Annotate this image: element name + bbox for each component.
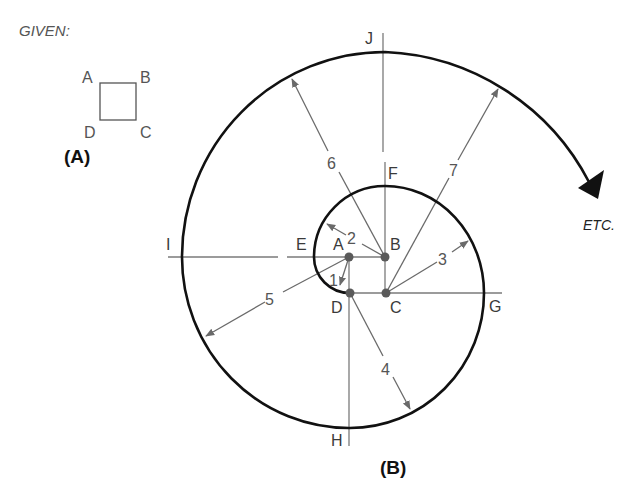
label-f: F xyxy=(388,165,398,182)
spiral-arrowhead-icon xyxy=(578,170,604,199)
radius-arrow-6 xyxy=(292,79,328,151)
label-h: H xyxy=(331,432,343,449)
dot-d xyxy=(346,289,355,298)
radius-arrow-7 xyxy=(458,89,498,160)
given-square xyxy=(100,83,136,120)
label-d: D xyxy=(331,299,343,316)
label-e: E xyxy=(296,236,307,253)
given-label-c: C xyxy=(140,124,152,141)
given-label-a: A xyxy=(82,69,93,86)
label-g: G xyxy=(489,298,501,315)
radius-label-2: 2 xyxy=(347,230,356,247)
given-label-d: D xyxy=(84,124,96,141)
spiral-labels: A B C D E F G H I J 1 2 3 4 5 6 7 ETC. (… xyxy=(166,30,615,478)
figure-label-b: (B) xyxy=(380,457,406,478)
radius-arrow-2 xyxy=(327,224,346,235)
radius-arrow-3-tail xyxy=(386,262,437,293)
radius-label-5: 5 xyxy=(265,291,274,308)
radius-label-1: 1 xyxy=(329,272,338,289)
square-corner-dots xyxy=(345,253,391,298)
figure-label-a: (A) xyxy=(64,146,90,167)
label-i: I xyxy=(166,236,170,253)
dot-b xyxy=(381,253,390,262)
given-panel: GIVEN: A B C D (A) xyxy=(19,22,152,167)
given-title: GIVEN: xyxy=(19,22,70,39)
radius-arrow-4-tail xyxy=(350,293,383,356)
dot-a xyxy=(345,253,354,262)
given-label-b: B xyxy=(140,69,151,86)
etc-label: ETC. xyxy=(583,217,615,233)
spiral-diagram: GIVEN: A B C D (A) xyxy=(0,0,631,497)
radius-arrow-4 xyxy=(393,377,410,409)
radius-label-7: 7 xyxy=(449,162,458,179)
radius-label-3: 3 xyxy=(438,251,447,268)
label-a: A xyxy=(333,236,344,253)
radius-label-6: 6 xyxy=(327,155,336,172)
radius-label-4: 4 xyxy=(381,361,390,378)
radius-arrow-3 xyxy=(452,241,468,252)
radius-arrow-5 xyxy=(206,302,265,336)
label-b: B xyxy=(390,236,401,253)
label-c: C xyxy=(390,299,402,316)
label-j: J xyxy=(365,30,373,47)
dot-c xyxy=(382,289,391,298)
radius-arrow-5-tail xyxy=(283,257,349,292)
